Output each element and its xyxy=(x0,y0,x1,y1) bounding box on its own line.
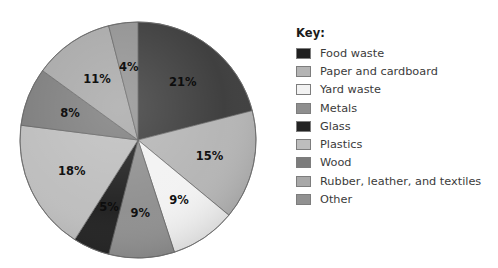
pie-slice-label: 5% xyxy=(99,200,119,214)
legend-item: Glass xyxy=(296,117,496,135)
legend-item: Metals xyxy=(296,99,496,117)
legend-items: Food wastePaper and cardboardYard wasteM… xyxy=(296,44,496,209)
legend-item: Rubber, leather, and textiles xyxy=(296,172,496,190)
legend-item-label: Metals xyxy=(320,102,357,115)
legend-color-swatch xyxy=(296,48,311,59)
legend-color-swatch xyxy=(296,84,311,95)
pie-slice-label: 21% xyxy=(169,75,197,89)
legend-color-swatch xyxy=(296,176,311,187)
legend-color-swatch xyxy=(296,194,311,205)
pie-shading-overlay xyxy=(20,22,256,258)
legend-item: Other xyxy=(296,190,496,208)
pie-chart-figure: 21%15%9%9%5%18%8%11%4% Key: Food wastePa… xyxy=(0,0,498,268)
legend-item: Plastics xyxy=(296,135,496,153)
pie-slice-label: 4% xyxy=(119,60,139,74)
pie-slice-label: 9% xyxy=(169,193,189,207)
legend-item-label: Wood xyxy=(320,156,352,169)
legend-item-label: Food waste xyxy=(320,47,384,60)
legend-color-swatch xyxy=(296,66,311,77)
pie-slice-label: 11% xyxy=(83,72,111,86)
legend-color-swatch xyxy=(296,157,311,168)
legend-item: Wood xyxy=(296,154,496,172)
pie-slice-label: 8% xyxy=(60,106,80,120)
legend-item: Yard waste xyxy=(296,81,496,99)
legend-item: Paper and cardboard xyxy=(296,62,496,80)
legend-color-swatch xyxy=(296,139,311,150)
legend: Key: Food wastePaper and cardboardYard w… xyxy=(296,26,496,209)
pie-slice-label: 9% xyxy=(131,206,151,220)
pie-slice-label: 18% xyxy=(58,164,86,178)
legend-color-swatch xyxy=(296,103,311,114)
pie-chart-svg: 21%15%9%9%5%18%8%11%4% xyxy=(0,0,290,268)
legend-item: Food waste xyxy=(296,44,496,62)
pie-slice-label: 15% xyxy=(196,149,224,163)
legend-item-label: Rubber, leather, and textiles xyxy=(320,175,481,188)
legend-title: Key: xyxy=(296,26,496,40)
legend-item-label: Paper and cardboard xyxy=(320,65,438,78)
legend-item-label: Other xyxy=(320,193,352,206)
legend-item-label: Glass xyxy=(320,120,351,133)
pie-chart-area: 21%15%9%9%5%18%8%11%4% xyxy=(0,0,290,268)
legend-item-label: Yard waste xyxy=(320,83,381,96)
legend-color-swatch xyxy=(296,121,311,132)
legend-item-label: Plastics xyxy=(320,138,362,151)
